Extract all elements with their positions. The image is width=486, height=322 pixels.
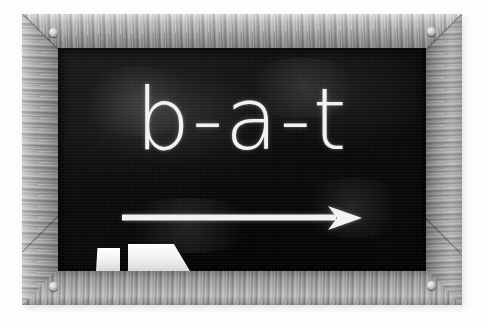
wooden-frame: b-a-t <box>22 14 462 305</box>
frame-screw-bottom-right <box>427 281 436 290</box>
chalkboard-eraser <box>128 244 190 271</box>
blending-arrow-icon <box>122 206 362 230</box>
frame-screw-top-right <box>427 27 436 36</box>
chalk-word-bat: b-a-t <box>58 76 426 162</box>
chalkboard-scene: b-a-t <box>0 0 486 322</box>
frame-rail-top <box>22 14 462 50</box>
chalk-stick <box>96 248 120 271</box>
frame-rail-left <box>22 14 58 305</box>
frame-screw-bottom-left <box>49 282 58 291</box>
frame-rail-right <box>426 14 462 305</box>
frame-screw-top-left <box>49 28 58 37</box>
frame-rail-bottom <box>22 269 462 305</box>
chalkboard-surface: b-a-t <box>58 48 426 271</box>
